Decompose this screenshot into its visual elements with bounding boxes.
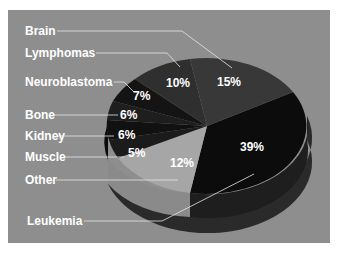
pie-chart: Brain Lymphomas Neuroblastoma Bone Kidne… — [0, 0, 350, 254]
label-bone: Bone — [25, 108, 55, 122]
label-kidney: Kidney — [25, 129, 65, 143]
pct-lymphomas: 10% — [166, 76, 190, 90]
label-leukemia: Leukemia — [27, 214, 83, 228]
category-labels: Brain Lymphomas Neuroblastoma Bone Kidne… — [25, 24, 113, 228]
pct-bone: 6% — [120, 108, 138, 122]
pct-brain: 15% — [217, 75, 241, 89]
pct-other: 12% — [170, 156, 194, 170]
pct-kidney: 6% — [118, 128, 136, 142]
label-muscle: Muscle — [25, 150, 66, 164]
label-neuroblastoma: Neuroblastoma — [25, 75, 113, 89]
label-other: Other — [25, 173, 57, 187]
pct-muscle: 5% — [128, 146, 146, 160]
label-lymphomas: Lymphomas — [25, 46, 96, 60]
pct-leukemia: 39% — [240, 140, 264, 154]
pct-neuroblastoma: 7% — [133, 89, 151, 103]
pie-slices — [107, 58, 307, 194]
label-brain: Brain — [25, 24, 56, 38]
